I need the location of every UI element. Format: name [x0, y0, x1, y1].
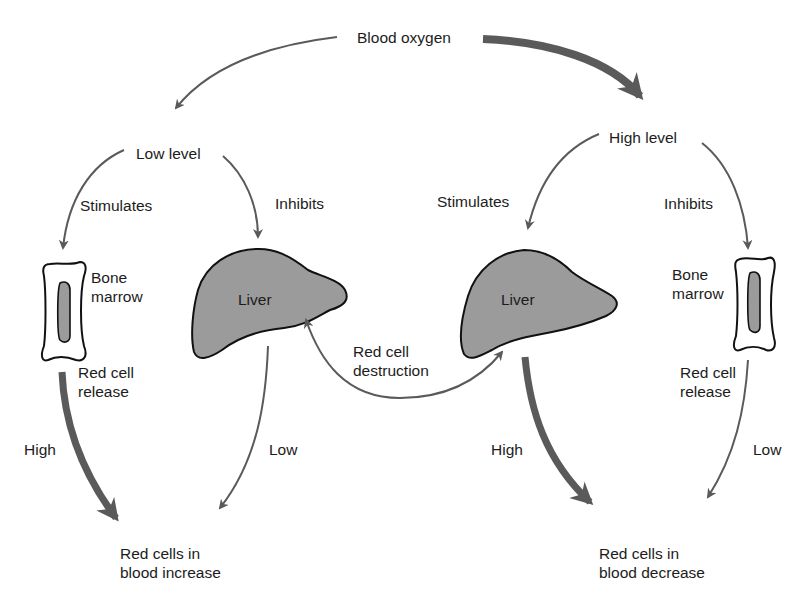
high-stimulates-label: Stimulates	[437, 192, 509, 211]
low-liver-label: Liver	[238, 290, 272, 309]
low-release-label: Red cell release	[78, 363, 134, 401]
root-label-blood-oxygen: Blood oxygen	[357, 28, 451, 47]
high-level-label: High level	[609, 128, 677, 147]
high-bone-marrow-label: Bone marrow	[672, 265, 724, 303]
high-release-rate-label: Low	[753, 440, 781, 459]
low-liver-rate-label: Low	[269, 440, 297, 459]
high-liver-rate-label: High	[491, 440, 523, 459]
low-bone-marrow-label: Bone marrow	[91, 268, 143, 306]
low-inhibits-label: Inhibits	[275, 194, 324, 213]
arrow-oxygen-to-high-level	[483, 39, 640, 96]
arrow-right-liver-high	[525, 357, 590, 502]
high-outcome-label: Red cells in blood decrease	[599, 544, 705, 582]
low-level-label: Low level	[136, 144, 201, 163]
high-inhibits-label: Inhibits	[664, 194, 713, 213]
arrow-oxygen-to-low-level	[176, 37, 337, 108]
low-stimulates-label: Stimulates	[80, 196, 152, 215]
red-cell-destruction-label: Red cell destruction	[353, 342, 429, 380]
high-liver-label: Liver	[501, 290, 535, 309]
arrow-high-stimulates-liver	[528, 134, 599, 228]
bone-marrow-right-icon	[734, 258, 775, 351]
low-outcome-label: Red cells in blood increase	[120, 544, 221, 582]
high-release-label: Red cell release	[680, 363, 736, 401]
low-release-rate-label: High	[24, 440, 56, 459]
arrow-low-inhibits-liver	[223, 156, 258, 237]
liver-right-icon	[461, 250, 617, 358]
arrow-left-liver-low	[220, 346, 268, 508]
bone-marrow-left-icon	[42, 262, 86, 360]
